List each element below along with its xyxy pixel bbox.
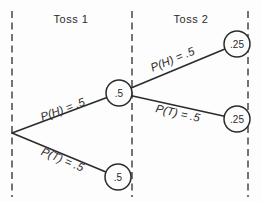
tree-canvas: Toss 1 Toss 2 P(H) = .5 P(T) = .5 P(H) =… xyxy=(0,0,261,202)
node-value-toss1-heads: .5 xyxy=(115,88,124,99)
node-value-toss2-tails: .25 xyxy=(230,114,244,125)
branch-label-toss1-tails: P(T) = .5 xyxy=(39,145,86,174)
node-value-toss2-heads: .25 xyxy=(230,39,244,50)
node-value-toss1-tails: .5 xyxy=(114,172,123,183)
probability-tree-diagram: Toss 1 Toss 2 P(H) = .5 P(T) = .5 P(H) =… xyxy=(0,0,261,202)
column-label-toss-2: Toss 2 xyxy=(174,13,209,25)
column-label-toss-1: Toss 1 xyxy=(54,13,89,25)
branch-label-toss2-heads: P(H) = .5 xyxy=(149,45,197,74)
branch-label-toss1-heads: P(H) = .5 xyxy=(39,95,87,123)
